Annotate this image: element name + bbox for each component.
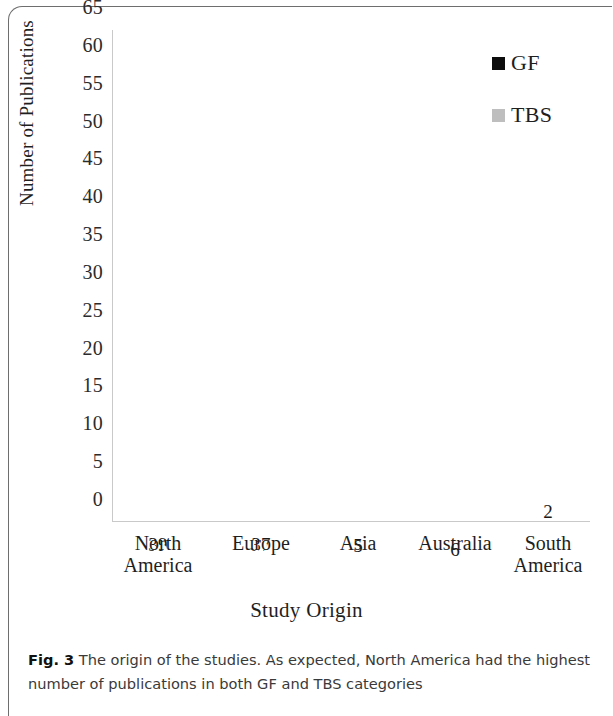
figure-caption-label: Fig. 3 <box>28 651 74 668</box>
legend-label-gf: GF <box>511 50 540 76</box>
y-tick-label: 60 <box>82 33 103 56</box>
y-tick-label: 65 <box>82 0 103 19</box>
y-tick-label: 5 <box>93 450 103 473</box>
bar-chart: Number of Publications 65 60 55 50 45 40… <box>0 0 613 598</box>
y-tick-label: 40 <box>82 185 103 208</box>
legend-swatch-icon <box>492 57 505 70</box>
legend-item-tbs[interactable]: TBS <box>492 102 552 128</box>
figure-caption: Fig. 3 The origin of the studies. As exp… <box>28 648 600 695</box>
y-tick-label: 25 <box>82 298 103 321</box>
y-axis-line <box>112 30 113 522</box>
y-tick-label: 0 <box>93 488 103 511</box>
legend-label-tbs: TBS <box>511 102 552 128</box>
legend-swatch-icon <box>492 109 505 122</box>
y-tick-label: 10 <box>82 412 103 435</box>
y-tick-label: 50 <box>82 109 103 132</box>
y-tick-label: 20 <box>82 336 103 359</box>
chart-legend: GF TBS <box>492 50 552 154</box>
y-tick-label: 30 <box>82 260 103 283</box>
legend-item-gf[interactable]: GF <box>492 50 552 76</box>
x-axis-title: Study Origin <box>0 598 613 623</box>
x-tick-label-south-america: SouthAmerica <box>489 532 607 577</box>
figure-caption-text: The origin of the studies. As expected, … <box>28 651 590 692</box>
y-tick-label: 45 <box>82 147 103 170</box>
y-tick-label: 35 <box>82 223 103 246</box>
y-tick-label: 15 <box>82 374 103 397</box>
y-axis-title: Number of Publications <box>16 178 38 206</box>
bar-value-label-tbs: 2 <box>511 501 585 523</box>
y-tick-label: 55 <box>82 71 103 94</box>
